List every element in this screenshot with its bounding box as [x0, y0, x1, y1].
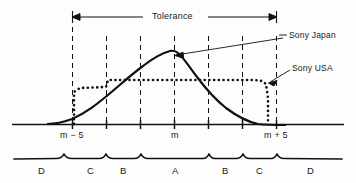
sony-japan-leader — [175, 35, 287, 58]
figure-canvas — [0, 0, 356, 183]
grade-label-d-left: D — [38, 165, 45, 176]
grade-label-b-left: B — [120, 165, 127, 176]
series-label-sony-japan: Sony Japan — [289, 30, 336, 40]
grade-label-d-right: D — [307, 165, 314, 176]
grade-brace-row — [14, 154, 342, 159]
grade-label-c-right: C — [256, 165, 263, 176]
axis-label-m-plus-5: m + 5 — [264, 130, 288, 140]
axis-label-m-minus-5: m − 5 — [60, 130, 84, 140]
tolerance-label: Tolerance — [152, 11, 193, 21]
grade-label-b-right: B — [222, 165, 229, 176]
distribution-figure: Tolerance Sony Japan Sony USA m − 5 m m … — [0, 0, 356, 183]
grade-label-a-center: A — [172, 165, 179, 176]
tick-dashed-lines — [73, 27, 277, 124]
axis-label-m: m — [171, 130, 179, 140]
series-label-sony-usa: Sony USA — [292, 63, 333, 73]
grade-label-c-left: C — [87, 165, 94, 176]
sony-usa-leader — [269, 70, 291, 86]
